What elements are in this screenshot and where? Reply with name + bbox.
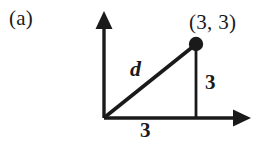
horizontal-side-length-label: 3 — [140, 120, 151, 141]
data-point-marker — [189, 37, 203, 51]
hypotenuse-segment — [105, 45, 195, 117]
x-axis-arrowhead-icon — [233, 110, 251, 127]
distance-label: d — [130, 58, 141, 80]
y-axis-arrowhead-icon — [96, 11, 113, 29]
point-coordinate-label: (3, 3) — [189, 12, 236, 33]
panel-label: (a) — [9, 8, 33, 29]
figure-panel-a: (a) (3, 3) d 3 3 — [0, 0, 258, 145]
vertical-side-length-label: 3 — [205, 72, 216, 93]
